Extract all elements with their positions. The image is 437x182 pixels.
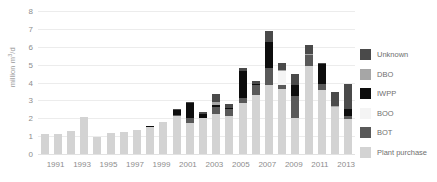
bar-segment: [225, 109, 233, 116]
gridline-0: 0: [38, 154, 355, 155]
chart-container: million m3/d 012345678 19911993199519971…: [0, 0, 437, 182]
stacked-bar[interactable]: [146, 126, 154, 154]
legend-label: BOT: [377, 128, 392, 137]
bar-segment: [41, 134, 49, 154]
bar-segment: [318, 64, 326, 85]
bar-group-2009: [289, 11, 302, 154]
stacked-bar[interactable]: [239, 68, 247, 154]
chart-legend: UnknownDBOIWPPBOOBOTPlant purchase: [360, 45, 437, 162]
x-tick-label-blank: [197, 156, 206, 174]
y-tick-label-3: 3: [29, 96, 33, 105]
bar-group-1998: [144, 11, 157, 154]
x-tick-label-blank: [276, 156, 285, 174]
y-tick-label-1: 1: [29, 132, 33, 141]
bar-segment: [252, 85, 260, 95]
legend-item-plant-purchase[interactable]: Plant purchase: [360, 143, 437, 163]
stacked-bar[interactable]: [80, 117, 88, 154]
bar-segment: [278, 89, 286, 154]
bar-segment: [133, 130, 141, 154]
legend-swatch-icon: [360, 147, 371, 158]
x-tick-label-2011: 2011: [311, 156, 328, 174]
stacked-bar[interactable]: [173, 109, 181, 154]
x-tick-label-blank: [38, 156, 47, 174]
bar-group-2013: [342, 11, 355, 154]
y-tick-label-4: 4: [29, 78, 33, 87]
bar-segment: [67, 131, 75, 154]
stacked-bar[interactable]: [225, 104, 233, 154]
x-tick-label-2013: 2013: [337, 156, 355, 174]
stacked-bar[interactable]: [120, 132, 128, 154]
bar-group-2002: [196, 11, 209, 154]
bar-group-1991: [51, 11, 64, 154]
bar-group-1990: [38, 11, 51, 154]
bar-segment: [265, 42, 273, 68]
bar-segment: [291, 96, 299, 118]
stacked-bar[interactable]: [318, 63, 326, 154]
bar-group-1993: [78, 11, 91, 154]
stacked-bar[interactable]: [252, 81, 260, 154]
stacked-bar[interactable]: [199, 112, 207, 154]
stacked-bar[interactable]: [265, 31, 273, 154]
legend-swatch-icon: [360, 88, 371, 99]
legend-label: Unknown: [377, 50, 408, 59]
bar-group-2001: [183, 11, 196, 154]
x-tick-label-blank: [303, 156, 312, 174]
bar-segment: [344, 84, 352, 109]
legend-item-boo[interactable]: BOO: [360, 104, 437, 124]
y-tick-label-6: 6: [29, 42, 33, 51]
stacked-bar[interactable]: [186, 102, 194, 154]
stacked-bar[interactable]: [54, 134, 62, 154]
bar-group-1992: [64, 11, 77, 154]
bar-segment: [265, 68, 273, 85]
bar-segment: [225, 116, 233, 154]
stacked-bar[interactable]: [41, 134, 49, 154]
bar-segment: [120, 132, 128, 154]
stacked-bar[interactable]: [212, 94, 220, 154]
bar-segment: [199, 118, 207, 154]
stacked-bar[interactable]: [93, 137, 101, 154]
bar-segment: [344, 119, 352, 154]
x-tick-label-blank: [250, 156, 259, 174]
legend-label: IWPP: [377, 89, 396, 98]
stacked-bar[interactable]: [278, 63, 286, 154]
y-tick-label-7: 7: [29, 24, 33, 33]
bar-group-2008: [276, 11, 289, 154]
x-tick-label-2001: 2001: [179, 156, 197, 174]
legend-label: BOO: [377, 109, 394, 118]
bar-segment: [265, 85, 273, 154]
bar-segment: [331, 92, 339, 105]
bar-segment: [305, 66, 313, 154]
x-tick-label-1995: 1995: [100, 156, 118, 174]
x-tick-label-1991: 1991: [47, 156, 65, 174]
stacked-bar[interactable]: [291, 74, 299, 154]
legend-item-dbo[interactable]: DBO: [360, 65, 437, 85]
bar-segment: [291, 74, 299, 85]
stacked-bar[interactable]: [159, 122, 167, 154]
stacked-bar[interactable]: [331, 92, 339, 154]
stacked-bar[interactable]: [133, 130, 141, 154]
bar-group-2004: [223, 11, 236, 154]
x-tick-label-blank: [329, 156, 338, 174]
stacked-bar[interactable]: [305, 45, 313, 154]
bar-segment: [344, 109, 352, 116]
bar-segment: [186, 123, 194, 154]
legend-item-unknown[interactable]: Unknown: [360, 45, 437, 65]
x-axis-labels: 1991199319951997199920012003200520072009…: [38, 156, 355, 174]
bar-segment: [54, 134, 62, 154]
bar-segment: [80, 117, 88, 154]
stacked-bar[interactable]: [344, 84, 352, 154]
bar-segment: [212, 94, 220, 102]
bar-segment: [93, 137, 101, 154]
stacked-bar[interactable]: [107, 133, 115, 154]
bar-segment: [278, 63, 286, 70]
bar-segment: [305, 45, 313, 54]
x-tick-label-2007: 2007: [258, 156, 276, 174]
stacked-bar[interactable]: [67, 131, 75, 154]
legend-label: Plant purchase: [377, 148, 427, 157]
y-tick-label-0: 0: [29, 150, 33, 159]
legend-item-iwpp[interactable]: IWPP: [360, 84, 437, 104]
y-axis-title: million m3/d: [7, 31, 18, 103]
legend-item-bot[interactable]: BOT: [360, 123, 437, 143]
x-tick-label-blank: [223, 156, 232, 174]
bar-group-1996: [117, 11, 130, 154]
